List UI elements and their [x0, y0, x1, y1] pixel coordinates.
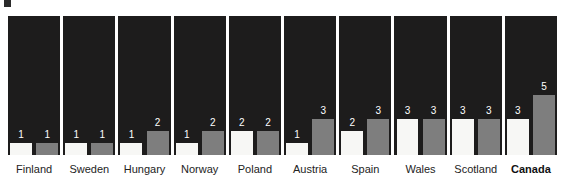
chart-panels-row: 11111212221323333335 — [8, 16, 557, 155]
bar-value-label: 1 — [118, 130, 144, 140]
bar-value-label: 1 — [63, 130, 89, 140]
bar-light — [176, 143, 198, 155]
bar-dark — [36, 143, 58, 155]
bar-value-label: 1 — [8, 130, 34, 140]
bar-slot-dark: 3 — [310, 16, 336, 155]
chart-panel-scotland: 33 — [450, 16, 502, 155]
bar-value-label: 1 — [89, 130, 115, 140]
bar-slot-light: 2 — [339, 16, 365, 155]
bar-group: 23 — [339, 16, 391, 155]
bar-light — [10, 143, 32, 155]
chart-panel-canada: 35 — [505, 16, 557, 155]
bar-value-label: 3 — [394, 106, 420, 116]
chart-panel-austria: 13 — [284, 16, 336, 155]
bar-value-label: 1 — [174, 130, 200, 140]
category-label-hungary: Hungary — [118, 162, 170, 182]
bar-value-label: 2 — [200, 118, 226, 128]
bar-dark — [478, 119, 500, 155]
chart-panel-sweden: 11 — [63, 16, 115, 155]
bar-slot-light: 1 — [284, 16, 310, 155]
bar-light — [507, 119, 529, 155]
chart-panel-norway: 12 — [174, 16, 226, 155]
bar-group: 11 — [63, 16, 115, 155]
bar-dark — [367, 119, 389, 155]
chart-panel-hungary: 12 — [118, 16, 170, 155]
bar-value-label: 3 — [505, 106, 531, 116]
bar-slot-dark: 3 — [476, 16, 502, 155]
category-label-norway: Norway — [174, 162, 226, 182]
bar-value-label: 1 — [284, 130, 310, 140]
bar-value-label: 3 — [450, 106, 476, 116]
corner-artifact-mark — [4, 0, 11, 7]
bar-slot-dark: 3 — [421, 16, 447, 155]
bar-group: 12 — [118, 16, 170, 155]
bar-light — [120, 143, 142, 155]
bar-value-label: 3 — [476, 106, 502, 116]
chart-panel-spain: 23 — [339, 16, 391, 155]
bar-slot-dark: 3 — [365, 16, 391, 155]
bar-group: 11 — [8, 16, 60, 155]
category-label-spain: Spain — [339, 162, 391, 182]
bar-slot-light: 1 — [8, 16, 34, 155]
bar-value-label: 2 — [229, 118, 255, 128]
category-label-poland: Poland — [229, 162, 281, 182]
bar-slot-light: 2 — [229, 16, 255, 155]
bar-dark — [147, 131, 169, 155]
bar-slot-light: 1 — [174, 16, 200, 155]
category-label-austria: Austria — [284, 162, 336, 182]
bar-dark — [202, 131, 224, 155]
category-label-wales: Wales — [394, 162, 446, 182]
category-label-scotland: Scotland — [450, 162, 502, 182]
bar-group: 33 — [450, 16, 502, 155]
bar-slot-light: 3 — [394, 16, 420, 155]
category-labels-row: FinlandSwedenHungaryNorwayPolandAustriaS… — [8, 162, 557, 182]
bar-group: 35 — [505, 16, 557, 155]
bar-dark — [533, 95, 555, 155]
chart-panel-poland: 22 — [229, 16, 281, 155]
category-label-finland: Finland — [8, 162, 60, 182]
bar-light — [341, 131, 363, 155]
bar-group: 12 — [174, 16, 226, 155]
bar-dark — [91, 143, 113, 155]
bar-value-label: 2 — [339, 118, 365, 128]
bar-value-label: 5 — [531, 82, 557, 92]
bar-light — [397, 119, 419, 155]
bar-slot-light: 3 — [505, 16, 531, 155]
category-label-sweden: Sweden — [63, 162, 115, 182]
bar-slot-dark: 5 — [531, 16, 557, 155]
bar-slot-dark: 2 — [255, 16, 281, 155]
bar-value-label: 3 — [310, 106, 336, 116]
bar-group: 13 — [284, 16, 336, 155]
bar-light — [286, 143, 308, 155]
bar-value-label: 2 — [255, 118, 281, 128]
bar-value-label: 3 — [365, 106, 391, 116]
bar-dark — [423, 119, 445, 155]
bar-light — [231, 131, 253, 155]
bar-value-label: 3 — [421, 106, 447, 116]
bar-group: 33 — [394, 16, 446, 155]
bar-slot-dark: 2 — [200, 16, 226, 155]
bar-slot-dark: 1 — [89, 16, 115, 155]
small-multiples-bar-chart: 11111212221323333335 FinlandSwedenHungar… — [0, 0, 565, 186]
bar-dark — [312, 119, 334, 155]
bar-value-label: 2 — [145, 118, 171, 128]
bar-slot-dark: 2 — [145, 16, 171, 155]
bar-dark — [257, 131, 279, 155]
category-label-canada: Canada — [505, 162, 557, 182]
bar-slot-light: 1 — [63, 16, 89, 155]
bar-slot-dark: 1 — [34, 16, 60, 155]
chart-panel-finland: 11 — [8, 16, 60, 155]
chart-panel-wales: 33 — [394, 16, 446, 155]
bar-light — [452, 119, 474, 155]
bar-value-label: 1 — [34, 130, 60, 140]
bar-slot-light: 3 — [450, 16, 476, 155]
bar-slot-light: 1 — [118, 16, 144, 155]
bar-light — [65, 143, 87, 155]
bar-group: 22 — [229, 16, 281, 155]
